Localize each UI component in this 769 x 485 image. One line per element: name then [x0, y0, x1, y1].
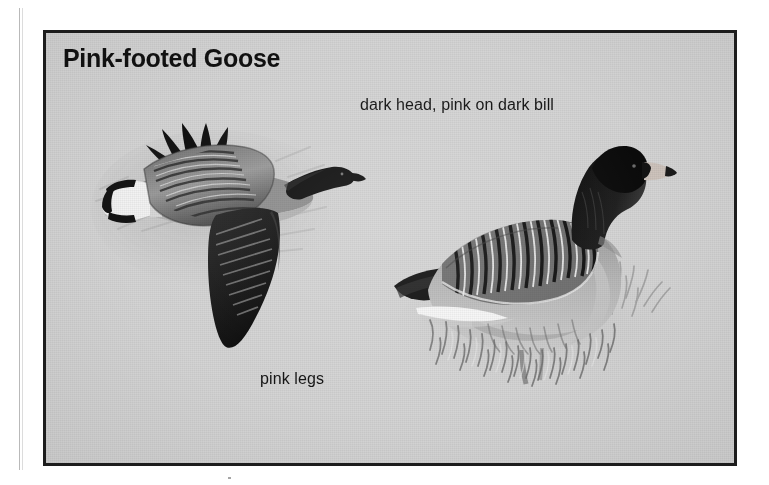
bill-tip [665, 166, 677, 176]
page-speck [228, 477, 231, 479]
eye [341, 173, 344, 176]
bill [351, 173, 366, 181]
callout-dark-head-pink-bill: dark head, pink on dark bill [360, 96, 554, 114]
head-neck-standing [572, 146, 677, 258]
page-title: Pink-footed Goose [63, 44, 280, 73]
gutter-rule-inner [19, 8, 20, 470]
eye [632, 164, 636, 168]
callout-pink-legs: pink legs [260, 370, 324, 388]
standing-goose-illustration [376, 118, 686, 398]
flight-primaries [208, 208, 280, 348]
gutter-rule-outer [22, 8, 23, 470]
illustration-plate: Pink-footed Goose dark head, pink on dar… [43, 30, 737, 466]
flying-goose-illustration [66, 103, 356, 323]
page-canvas: Pink-footed Goose dark head, pink on dar… [0, 0, 769, 485]
